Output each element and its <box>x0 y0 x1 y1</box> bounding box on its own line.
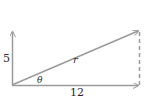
horizontal-label: 12 <box>70 86 84 99</box>
vertical-label: 5 <box>3 52 10 65</box>
hypotenuse-label: r <box>73 54 79 65</box>
angle-label: θ <box>37 75 43 85</box>
vector-diagram: 5 12 r θ <box>0 0 149 102</box>
